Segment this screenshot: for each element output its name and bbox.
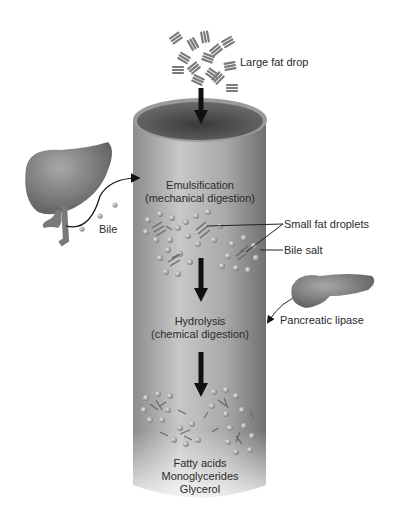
label-product-monoglycerides: Monoglycerides bbox=[150, 470, 250, 483]
label-product-glycerol: Glycerol bbox=[150, 483, 250, 496]
label-bile: Bile bbox=[99, 223, 117, 236]
large-fat-drop-icon bbox=[170, 32, 237, 91]
label-hydrolysis: Hydrolysis (chemical digestion) bbox=[140, 315, 260, 341]
label-hydrolysis-line2: (chemical digestion) bbox=[140, 328, 260, 341]
label-emulsification-line2: (mechanical digestion) bbox=[140, 192, 260, 205]
label-pancreatic-lipase: Pancreatic lipase bbox=[280, 314, 364, 327]
label-hydrolysis-line1: Hydrolysis bbox=[140, 315, 260, 328]
diagram-graphics bbox=[0, 0, 396, 519]
label-bile-salt: Bile salt bbox=[284, 244, 323, 257]
label-products: Fatty acids Monoglycerides Glycerol bbox=[150, 457, 250, 496]
label-product-fatty-acids: Fatty acids bbox=[150, 457, 250, 470]
label-emulsification-line1: Emulsification bbox=[140, 179, 260, 192]
pancreas-icon bbox=[291, 274, 374, 308]
label-small-fat-droplets: Small fat droplets bbox=[284, 218, 369, 231]
label-large-fat-drop: Large fat drop bbox=[240, 56, 309, 69]
label-emulsification: Emulsification (mechanical digestion) bbox=[140, 179, 260, 205]
fat-digestion-diagram: Large fat drop Emulsification (mechanica… bbox=[0, 0, 396, 519]
